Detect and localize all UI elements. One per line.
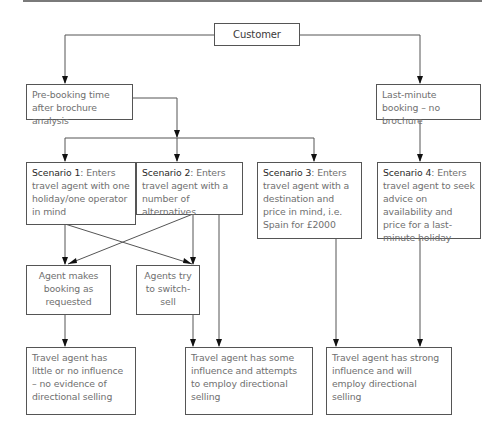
switch-sell-node: Agents try to switch-sell — [136, 265, 200, 315]
outcome-strong-influence-node: Travel agent has strong influence and wi… — [326, 347, 452, 415]
scenario-3-title: Scenario 3 — [263, 167, 311, 178]
agent-books-node: Agent makes booking as requested — [26, 265, 111, 315]
customer-node: Customer — [214, 23, 300, 46]
scenario-2-title: Scenario 2 — [142, 167, 190, 178]
scenario-3-node: Scenario 3: Enters travel agent with a d… — [257, 162, 362, 239]
customer-label: Customer — [233, 29, 281, 40]
outcome-strong-influence-label: Travel agent has strong influence and wi… — [332, 352, 439, 402]
scenario-4-title: Scenario 4 — [383, 167, 431, 178]
scenario-4-node: Scenario 4: Enters travel agent to seek … — [377, 162, 481, 239]
scenario-2-node: Scenario 2: Enters travel agent with a n… — [136, 162, 243, 215]
switch-sell-label: Agents try to switch-sell — [144, 270, 191, 307]
outcome-some-influence-node: Travel agent has some influence and atte… — [185, 347, 313, 415]
scenario-1-title: Scenario 1 — [32, 167, 80, 178]
scenario-4-text: : Enters travel agent to seek advice on … — [383, 167, 475, 243]
lastminute-node: Last-minute booking – no brochure — [376, 84, 481, 120]
prebooking-node: Pre-booking time after brochure analysis — [26, 84, 133, 120]
scenario-1-node: Scenario 1: Enters travel agent with one… — [26, 162, 136, 225]
outcome-some-influence-label: Travel agent has some influence and atte… — [191, 352, 297, 402]
agent-books-label: Agent makes booking as requested — [39, 270, 99, 307]
outcome-low-influence-label: Travel agent has little or no influence … — [32, 352, 123, 402]
outcome-low-influence-node: Travel agent has little or no influence … — [26, 347, 136, 415]
